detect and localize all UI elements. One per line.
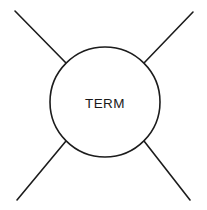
edge-top-left bbox=[15, 11, 66, 63]
diagram-canvas: TERM bbox=[0, 0, 207, 210]
edge-bottom-left bbox=[17, 141, 66, 200]
term-node-label: TERM bbox=[85, 96, 125, 111]
diagram-svg: TERM bbox=[0, 0, 207, 210]
edge-top-right bbox=[144, 12, 193, 63]
edge-bottom-right bbox=[144, 141, 190, 200]
